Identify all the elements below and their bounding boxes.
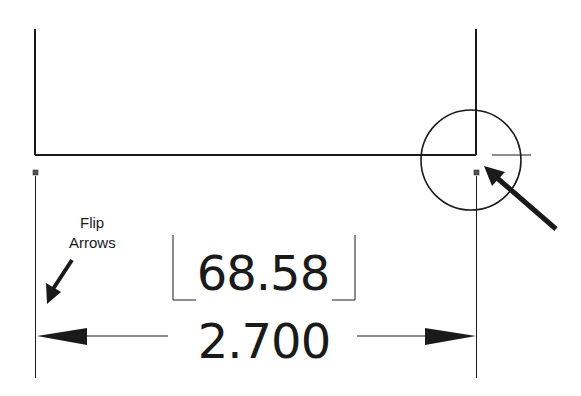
arrowhead-right-icon[interactable] (425, 328, 476, 345)
extension-line-right[interactable] (474, 170, 479, 378)
flip-arrows-label-line1: Flip (80, 214, 104, 231)
highlight-circle (421, 110, 521, 210)
pointer-arrow-icon (484, 166, 556, 229)
part-outline (35, 29, 476, 155)
grip-handle-right (474, 170, 479, 175)
alternate-dimension-value[interactable]: 68.58 (197, 245, 329, 301)
extension-line-left[interactable] (33, 170, 38, 378)
grip-handle-left (33, 170, 38, 175)
primary-dimension-value[interactable]: 2.700 (198, 313, 330, 369)
arrowhead-left-icon[interactable] (37, 328, 87, 345)
flip-arrows-label-line2: Arrows (69, 234, 116, 251)
flip-arrows-pointer-icon (46, 260, 72, 304)
dimension-drawing: 68.58 2.700 Flip Arrows (0, 0, 581, 396)
